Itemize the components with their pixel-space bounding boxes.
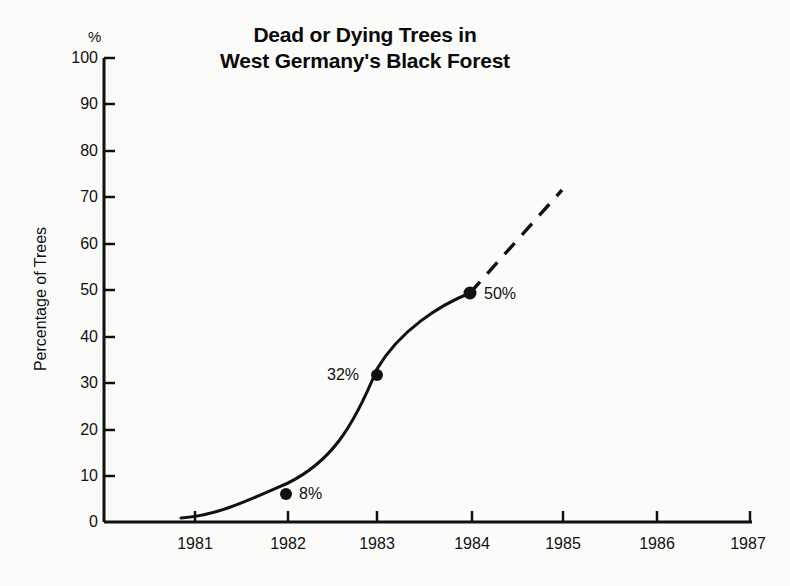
y-axis-ticks bbox=[104, 58, 115, 476]
data-point-marker-50pct bbox=[464, 287, 477, 300]
series-line-observed bbox=[181, 293, 470, 518]
chart-figure: Dead or Dying Trees in West Germany's Bl… bbox=[0, 0, 790, 586]
series-line-projection bbox=[470, 190, 562, 293]
data-point-marker-8pct bbox=[280, 488, 292, 500]
chart-plot-area bbox=[0, 0, 790, 586]
x-axis-ticks bbox=[195, 511, 750, 522]
data-point-marker-32pct bbox=[371, 369, 383, 381]
